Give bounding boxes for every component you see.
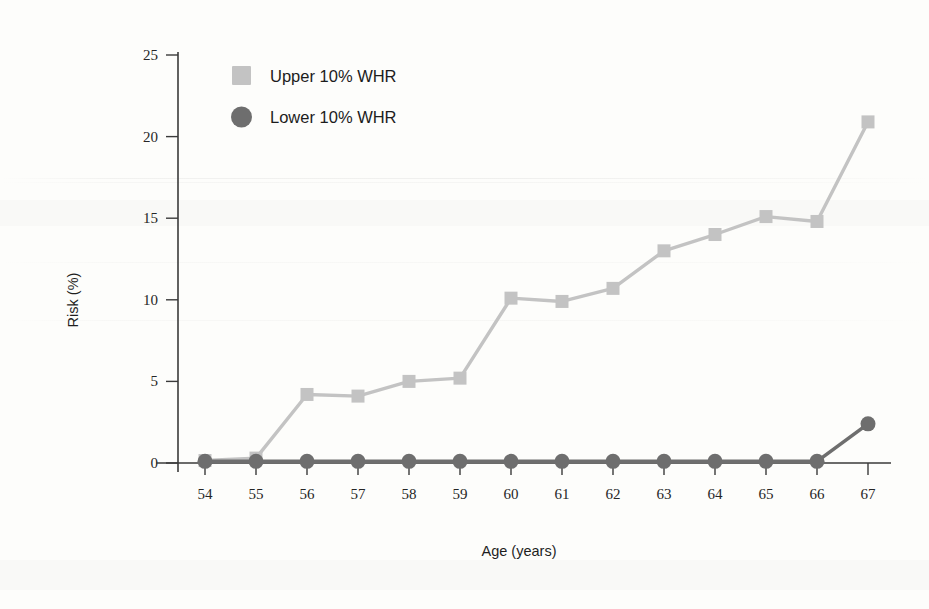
data-point	[351, 454, 366, 469]
x-tick-label-59: 59	[453, 486, 468, 502]
x-tick-label-63: 63	[657, 486, 672, 502]
data-point	[352, 390, 365, 403]
x-tick-label-54: 54	[198, 486, 214, 502]
x-tick-label-65: 65	[759, 486, 774, 502]
data-point	[759, 454, 774, 469]
y-tick-label-5: 5	[151, 373, 159, 389]
series-upper-10-whr	[199, 115, 875, 467]
data-point	[505, 292, 518, 305]
x-tick-group: 5455565758596061626364656667	[198, 463, 877, 502]
data-point	[862, 115, 875, 128]
data-point	[454, 372, 467, 385]
data-point	[810, 454, 825, 469]
y-tick-label-25: 25	[143, 47, 158, 63]
data-point	[301, 388, 314, 401]
x-axis-title: Age (years)	[482, 543, 557, 559]
y-tick-label-10: 10	[143, 292, 158, 308]
data-point	[403, 375, 416, 388]
x-tick-label-67: 67	[861, 486, 877, 502]
chart-canvas: 0 5 10 15 20 25 Risk (%) 545556575859606…	[0, 0, 929, 609]
x-tick-label-66: 66	[810, 486, 826, 502]
legend-label-upper: Upper 10% WHR	[270, 67, 397, 85]
data-point	[556, 295, 569, 308]
data-point	[760, 210, 773, 223]
risk-by-age-line-chart: 0 5 10 15 20 25 Risk (%) 545556575859606…	[0, 0, 929, 609]
data-point	[606, 454, 621, 469]
data-point	[658, 244, 671, 257]
data-point	[708, 454, 723, 469]
upper-series-line	[205, 122, 868, 461]
x-tick-label-60: 60	[504, 486, 519, 502]
data-point	[249, 454, 264, 469]
data-point	[555, 454, 570, 469]
data-point	[861, 416, 876, 431]
data-point	[811, 215, 824, 228]
x-tick-label-56: 56	[300, 486, 316, 502]
data-point	[657, 454, 672, 469]
data-point	[300, 454, 315, 469]
chart-legend: Upper 10% WHR Lower 10% WHR	[231, 66, 397, 128]
y-axis-title: Risk (%)	[65, 273, 81, 328]
y-axis: 0 5 10 15 20 25 Risk (%)	[65, 47, 178, 472]
series-lower-10-whr	[198, 416, 876, 469]
x-tick-label-58: 58	[402, 486, 417, 502]
legend-label-lower: Lower 10% WHR	[270, 108, 397, 126]
upper-series-markers	[199, 115, 875, 467]
data-point	[402, 454, 417, 469]
x-tick-label-55: 55	[249, 486, 264, 502]
y-tick-label-15: 15	[143, 210, 158, 226]
x-tick-label-62: 62	[606, 486, 621, 502]
y-tick-label-20: 20	[143, 129, 158, 145]
legend-circle-marker-icon	[231, 107, 252, 128]
x-tick-label-61: 61	[555, 486, 570, 502]
data-point	[709, 228, 722, 241]
y-tick-group: 0 5 10 15 20 25	[143, 47, 178, 471]
data-point	[453, 454, 468, 469]
legend-square-marker-icon	[232, 66, 251, 85]
x-tick-label-64: 64	[708, 486, 724, 502]
data-point	[607, 282, 620, 295]
x-axis: 5455565758596061626364656667 Age (years)	[156, 463, 891, 559]
x-tick-label-57: 57	[351, 486, 367, 502]
data-point	[198, 454, 213, 469]
data-point	[504, 454, 519, 469]
